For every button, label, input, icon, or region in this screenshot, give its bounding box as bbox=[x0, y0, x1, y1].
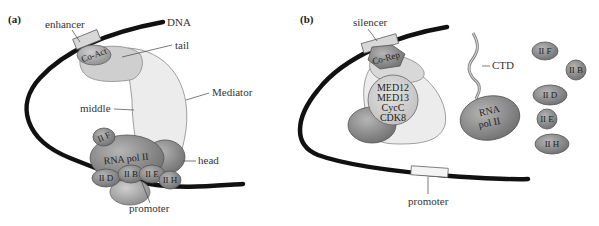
tfiif-free-label: II F bbox=[538, 46, 551, 56]
tfiie-label: II E bbox=[145, 169, 159, 179]
promoter-label-a: promoter bbox=[129, 202, 170, 214]
middle-label: middle bbox=[80, 102, 111, 114]
tfiih-label: II H bbox=[163, 175, 178, 185]
silencer-label: silencer bbox=[353, 16, 388, 28]
tfiib-label: II B bbox=[124, 169, 138, 179]
promoter-element-b bbox=[411, 166, 449, 178]
panel-b-label: (b) bbox=[300, 13, 314, 26]
cdk8-label: CDK8 bbox=[380, 112, 406, 123]
mediator-label: Mediator bbox=[212, 86, 253, 98]
ctd-label: CTD bbox=[492, 59, 514, 71]
tfiib-free-label: II B bbox=[569, 65, 583, 75]
panel-a: (a) Co-Act RNA pol II II F II D II B bbox=[8, 13, 253, 214]
panel-b: (b) MED12 MED13 CycC CDK8 Co-Rep CTD RNA… bbox=[300, 13, 586, 207]
tfiie-free-label: II E bbox=[540, 114, 554, 124]
head-label: head bbox=[198, 154, 219, 166]
promoter-label-b: promoter bbox=[408, 195, 449, 207]
tfiid-free-label: II D bbox=[543, 90, 558, 100]
panel-a-label: (a) bbox=[8, 13, 21, 26]
tfiid-label: II D bbox=[99, 173, 114, 183]
dna-label: DNA bbox=[167, 16, 191, 28]
tfiih-free-label: II H bbox=[545, 139, 560, 149]
mediator-diagram: (a) Co-Act RNA pol II II F II D II B bbox=[0, 0, 599, 226]
tail-label: tail bbox=[175, 39, 189, 51]
enhancer-label: enhancer bbox=[45, 18, 85, 30]
ctd-tail bbox=[469, 33, 479, 99]
